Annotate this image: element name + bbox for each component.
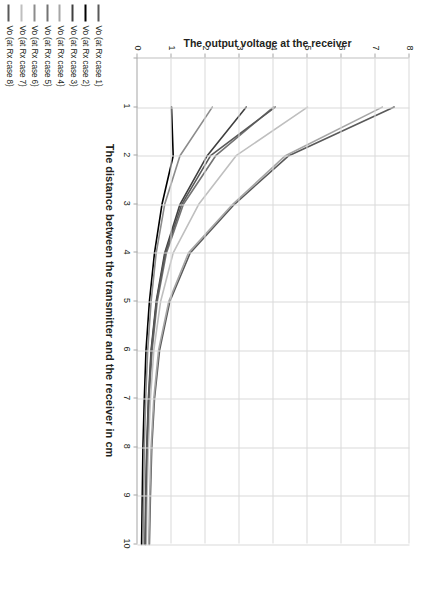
legend-line-swatch [33, 4, 35, 21]
legend-line-swatch [7, 4, 9, 21]
gridline-horizontal [340, 58, 341, 543]
legend-item-2[interactable]: Vo (at Rx case 2) [80, 4, 91, 603]
legend-line-swatch [58, 4, 60, 21]
gridline-horizontal [238, 58, 239, 543]
legend-label: Vo (at Rx case 1) [93, 25, 102, 86]
chart-figure: The distance between the transmitter and… [0, 0, 421, 603]
legend-label: Vo (at Rx case 6) [29, 25, 38, 86]
legend-line-swatch [84, 4, 86, 21]
x-axis-tick [133, 106, 137, 107]
x-axis-tick [133, 349, 137, 350]
legend-line-swatch [20, 4, 22, 21]
legend-label: Vo (at Rx case 5) [42, 25, 51, 86]
y-axis-tick [170, 53, 171, 57]
legend-label: Vo (at Rx case 8) [4, 25, 13, 86]
gridline-vertical [137, 544, 409, 545]
legend-label: Vo (at Rx case 7) [17, 25, 26, 86]
legend-item-6[interactable]: Vo (at Rx case 6) [29, 4, 40, 603]
legend-line-swatch [46, 4, 48, 21]
y-axis-tick [238, 53, 239, 57]
x-axis-tick [133, 397, 137, 398]
legend-item-8[interactable]: Vo (at Rx case 8) [3, 4, 14, 603]
gridline-horizontal [374, 58, 375, 543]
legend-item-4[interactable]: Vo (at Rx case 4) [54, 4, 65, 603]
plot-area [137, 57, 409, 543]
x-axis-label: 1 [121, 96, 131, 116]
legend-item-1[interactable]: Vo (at Rx case 1) [92, 4, 103, 603]
gridline-horizontal [408, 58, 409, 543]
y-axis-tick [136, 53, 137, 57]
legend-item-3[interactable]: Vo (at Rx case 3) [67, 4, 78, 603]
y-axis-tick [340, 53, 341, 57]
legend-line-swatch [71, 4, 73, 21]
x-axis-label: 2 [121, 144, 131, 164]
x-axis-tick [133, 494, 137, 495]
legend-label: Vo (at Rx case 2) [80, 25, 89, 86]
y-axis-tick [272, 53, 273, 57]
y-axis-tick [204, 53, 205, 57]
x-axis-tick [133, 154, 137, 155]
x-axis-tick [133, 203, 137, 204]
x-axis-label: 10 [121, 533, 131, 553]
x-axis-tick [133, 300, 137, 301]
x-axis-tick [133, 446, 137, 447]
y-axis-label: 8 [404, 28, 414, 50]
legend-line-swatch [97, 4, 99, 21]
legend-item-7[interactable]: Vo (at Rx case 7) [16, 4, 27, 603]
legend-label: Vo (at Rx case 4) [55, 25, 64, 86]
x-axis-label: 4 [121, 241, 131, 261]
x-axis-label: 8 [121, 436, 131, 456]
x-axis-label: 6 [121, 339, 131, 359]
legend-item-5[interactable]: Vo (at Rx case 5) [41, 4, 52, 603]
y-axis-label: 5 [302, 28, 312, 50]
x-axis-label: 5 [121, 290, 131, 310]
x-axis-tick [133, 543, 137, 544]
gridline-horizontal [204, 58, 205, 543]
gridline-horizontal [306, 58, 307, 543]
y-axis-label: 0 [132, 28, 142, 50]
legend: Vo (at Rx case 1)Vo (at Rx case 2)Vo (at… [3, 0, 103, 603]
series-line-4 [148, 107, 382, 544]
gridline-horizontal [272, 58, 273, 543]
y-axis-label: 4 [268, 28, 278, 50]
gridline-horizontal [170, 58, 171, 543]
rotated-figure-wrapper: The distance between the transmitter and… [0, 0, 421, 603]
y-axis-label: 2 [200, 28, 210, 50]
series-line-3 [144, 107, 245, 544]
y-axis-tick [306, 53, 307, 57]
y-axis-tick [408, 53, 409, 57]
y-axis-label: 1 [166, 28, 176, 50]
series-line-1 [149, 107, 394, 544]
y-axis-label: 7 [370, 28, 380, 50]
x-axis-title: The distance between the transmitter and… [103, 57, 115, 543]
y-axis-label: 6 [336, 28, 346, 50]
x-axis-label: 7 [121, 387, 131, 407]
y-axis-label: 3 [234, 28, 244, 50]
x-axis-label: 3 [121, 193, 131, 213]
x-axis-label: 9 [121, 484, 131, 504]
x-axis-tick [133, 251, 137, 252]
y-axis-tick [374, 53, 375, 57]
legend-label: Vo (at Rx case 3) [68, 25, 77, 86]
